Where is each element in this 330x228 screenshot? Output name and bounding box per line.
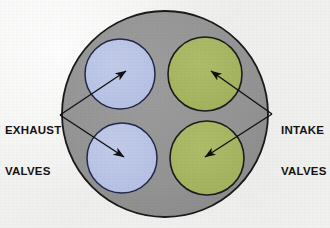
intake-valve-lower-right: [170, 121, 244, 195]
cylinder-bore: [62, 11, 268, 217]
intake-label-line-1: INTAKE: [281, 124, 327, 138]
exhaust-valve-lower-left: [87, 123, 157, 193]
exhaust-valve-upper-left: [85, 39, 155, 109]
exhaust-label-line-2: VALVES: [5, 165, 61, 179]
exhaust-label-line-1: EXHAUST: [5, 124, 61, 138]
intake-label-line-2: VALVES: [281, 165, 327, 179]
exhaust-valves-label: EXHAUST VALVES: [5, 97, 61, 205]
intake-valve-upper-right: [168, 37, 242, 111]
valve-diagram-canvas: EXHAUST VALVES INTAKE VALVES: [0, 0, 330, 228]
intake-valves-label: INTAKE VALVES: [281, 97, 327, 205]
